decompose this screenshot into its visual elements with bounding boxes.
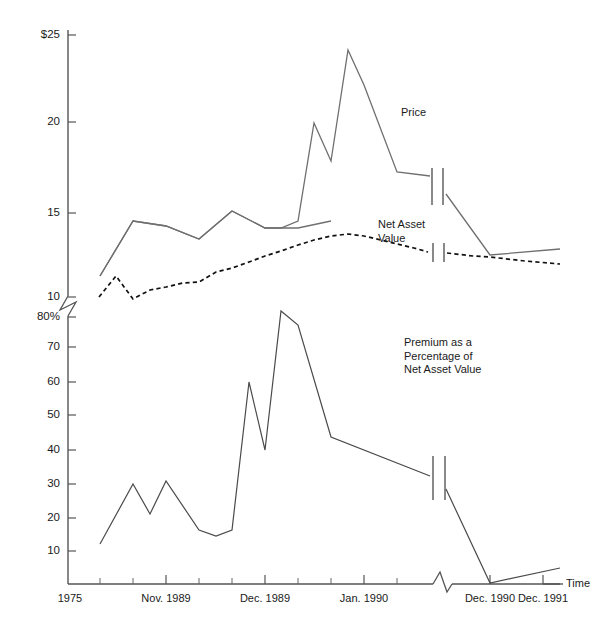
x-label-dec-1991: Dec. 1991 <box>503 592 583 604</box>
y-axis-upper <box>68 30 76 297</box>
y-label-80pct: 80% <box>14 310 60 322</box>
annotation-price: Price <box>401 106 426 120</box>
annotation-net-asset-value: Net Asset Value <box>378 218 425 245</box>
y-label-25: $25 <box>14 28 60 40</box>
annotation-premium-line3: Net Asset Value <box>404 363 481 377</box>
y-axis-break-mark <box>60 296 76 316</box>
series-net-asset-value <box>99 234 560 299</box>
y-label-10-lower: 10 <box>14 544 60 556</box>
x-axis-title: Time <box>566 577 590 589</box>
chart-container: $25 20 15 10 80% 70 60 50 40 30 20 10 19… <box>0 0 601 624</box>
annotation-nav-line2: Value <box>378 232 425 246</box>
y-label-30: 30 <box>14 477 60 489</box>
y-label-60: 60 <box>14 375 60 387</box>
annotation-premium-line2: Percentage of <box>404 350 481 364</box>
y-label-15: 15 <box>14 206 60 218</box>
x-label-jan-1990: Jan. 1990 <box>324 592 404 604</box>
y-axis-lower <box>68 316 76 584</box>
x-label-nov-1989: Nov. 1989 <box>126 592 206 604</box>
y-label-20-lower: 20 <box>14 511 60 523</box>
series-premium <box>100 311 560 583</box>
annotation-premium-line1: Premium as a <box>404 336 481 350</box>
x-label-dec-1989: Dec. 1989 <box>225 592 305 604</box>
y-label-50: 50 <box>14 408 60 420</box>
y-label-70: 70 <box>14 340 60 352</box>
y-label-10: 10 <box>14 290 60 302</box>
annotation-nav-line1: Net Asset <box>378 218 425 232</box>
x-label-1975: 1975 <box>40 592 100 604</box>
series-price <box>100 50 560 276</box>
chart-canvas <box>0 0 601 624</box>
y-label-20: 20 <box>14 115 60 127</box>
y-label-40: 40 <box>14 443 60 455</box>
annotation-premium: Premium as a Percentage of Net Asset Val… <box>404 336 481 377</box>
